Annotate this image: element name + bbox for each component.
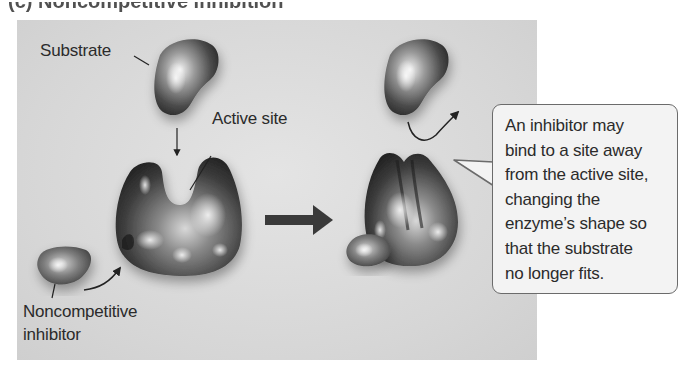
substrate-left xyxy=(154,39,218,115)
inhibitor-binding-arrow xyxy=(84,268,120,290)
inhibitor-label-line2: inhibitor xyxy=(23,325,81,344)
inhibitor-free xyxy=(37,247,91,285)
enzyme-active xyxy=(116,158,242,276)
transition-arrow xyxy=(265,205,333,235)
callout-line: from the active site, xyxy=(505,163,669,188)
substrate-leader-line xyxy=(134,56,149,65)
callout-line: enzyme’s shape so xyxy=(505,212,669,237)
callout-line: An inhibitor may xyxy=(505,114,669,139)
inhibitor-leader-line xyxy=(52,284,55,298)
callout-line: that the substrate xyxy=(505,237,669,262)
callout-line: no longer fits. xyxy=(505,262,669,287)
inhibitor-label-line1: Noncompetitive xyxy=(23,302,137,321)
callout-line: changing the xyxy=(505,188,669,213)
callout-line: bind to a site away xyxy=(505,139,669,164)
callout-pointer xyxy=(454,160,494,186)
explanation-callout: An inhibitor may bind to a site away fro… xyxy=(492,104,678,294)
substrate-rejected-arrow xyxy=(408,112,458,140)
substrate-right xyxy=(384,39,448,115)
inhibitor-bound xyxy=(346,234,390,266)
substrate-label: Substrate xyxy=(40,41,111,60)
active-site-label: Active site xyxy=(212,109,287,128)
